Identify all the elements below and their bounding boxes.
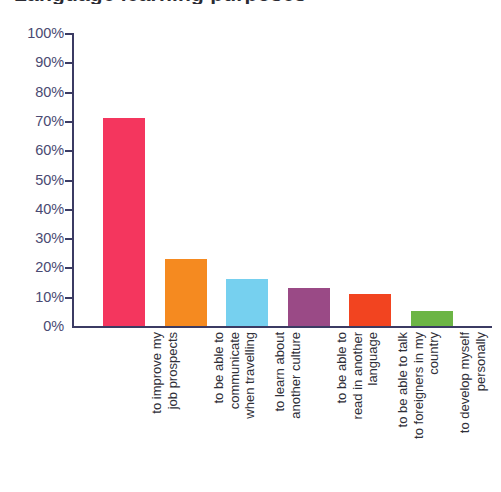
x-tick-label-line: to foreigners in my xyxy=(411,332,427,482)
bar xyxy=(165,259,207,326)
y-tick-label: 30% xyxy=(35,230,64,246)
x-tick-label-line: to be able to xyxy=(334,332,350,482)
y-tick-label: 60% xyxy=(35,142,64,158)
bar xyxy=(411,311,453,326)
bar-series xyxy=(72,33,492,326)
y-axis-tick xyxy=(65,121,74,123)
y-axis-tick xyxy=(65,238,74,240)
x-tick-label: to improve myjob prospects xyxy=(149,332,180,482)
x-tick-label: to learn aboutanother culture xyxy=(272,332,303,482)
x-tick-label-line: to improve my xyxy=(149,332,165,482)
y-axis-tick xyxy=(65,92,74,94)
bar xyxy=(288,288,330,326)
bar-chart: Language learning purposes 100%90%80%70%… xyxy=(0,0,501,492)
y-tick-label: 40% xyxy=(35,201,64,217)
x-tick-label-line: personally xyxy=(472,332,488,482)
y-tick-label: 0% xyxy=(43,318,64,334)
y-axis-tick xyxy=(65,33,74,35)
plot-area xyxy=(72,33,492,328)
y-tick-label: 80% xyxy=(35,84,64,100)
x-tick-label-line: job prospects xyxy=(165,332,181,482)
x-tick-label: to be able toread in anotherlanguage xyxy=(334,332,381,482)
y-tick-label: 20% xyxy=(35,259,64,275)
x-tick-label-line: to be able to talk xyxy=(395,332,411,482)
y-tick-label: 90% xyxy=(35,54,64,70)
chart-title: Language learning purposes xyxy=(14,0,306,4)
x-tick-label-line: country xyxy=(426,332,442,482)
x-tick-label: to develop myselfpersonally xyxy=(457,332,488,482)
y-axis-tick xyxy=(65,267,74,269)
y-tick-label: 100% xyxy=(27,25,64,41)
x-tick-label-line: to learn about xyxy=(272,332,288,482)
x-axis-line xyxy=(72,326,492,328)
bar xyxy=(103,118,145,326)
x-tick-label-line: read in another xyxy=(349,332,365,482)
x-axis-labels: to improve myjob prospectsto be able toc… xyxy=(72,332,497,492)
x-tick-label-line: language xyxy=(365,332,381,482)
y-axis-tick xyxy=(65,62,74,64)
y-axis-tick xyxy=(65,180,74,182)
y-axis-tick xyxy=(65,150,74,152)
y-tick-label: 70% xyxy=(35,113,64,129)
x-tick-label: to be able to talkto foreigners in mycou… xyxy=(395,332,442,482)
x-tick-label-line: communicate xyxy=(226,332,242,482)
x-tick-label-line: to be able to xyxy=(211,332,227,482)
y-axis-labels: 100%90%80%70%60%50%40%30%20%10%0% xyxy=(14,33,64,328)
bar xyxy=(349,294,391,326)
y-tick-label: 10% xyxy=(35,289,64,305)
bar xyxy=(226,279,268,326)
y-axis-tick xyxy=(65,297,74,299)
x-tick-label-line: when travelling xyxy=(242,332,258,482)
x-tick-label: to be able tocommunicatewhen travelling xyxy=(211,332,258,482)
y-axis-tick xyxy=(65,209,74,211)
x-tick-label-line: to develop myself xyxy=(457,332,473,482)
y-tick-label: 50% xyxy=(35,172,64,188)
x-tick-label-line: another culture xyxy=(288,332,304,482)
